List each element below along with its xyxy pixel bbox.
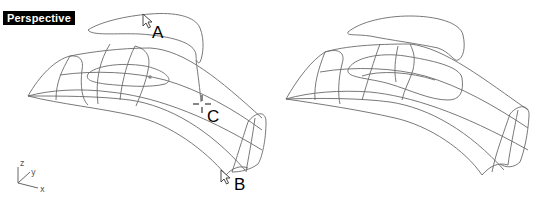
control-point [148, 75, 152, 79]
right-model [286, 16, 529, 175]
wireframe-scene: z y x [0, 0, 536, 197]
callout-c: C [207, 108, 219, 125]
world-axis-icon: z y x [18, 159, 45, 194]
arrow-cursor-icon [143, 14, 152, 28]
callout-b: B [234, 176, 245, 193]
axis-y-label: y [31, 168, 36, 177]
perspective-viewport[interactable]: Perspective [0, 0, 536, 197]
callout-a: A [152, 24, 163, 41]
axis-x-label: x [40, 185, 45, 194]
projected-curve-right [348, 16, 464, 60]
axis-z-label: z [20, 159, 24, 168]
left-model [28, 14, 266, 175]
